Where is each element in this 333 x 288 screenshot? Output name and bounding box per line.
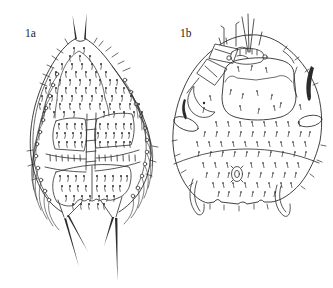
panel-label-1a: 1a: [25, 27, 36, 39]
background: [0, 0, 333, 288]
figure-plate: 1a 1b: [0, 0, 333, 288]
panel-label-1b: 1b: [180, 27, 192, 39]
specimen-figure: 1a 1b: [0, 0, 333, 288]
